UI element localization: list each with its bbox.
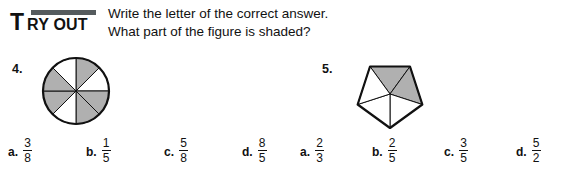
fraction-numerator: 5: [179, 137, 188, 149]
answer-choice[interactable]: d.85: [242, 138, 267, 165]
choice-letter: d.: [242, 145, 253, 159]
question-number-5: 5.: [322, 62, 332, 76]
fraction-denominator: 2: [532, 152, 541, 164]
fraction-denominator: 5: [388, 152, 397, 164]
try-out-badge-text: RY OUT: [27, 17, 88, 33]
fraction-denominator: 5: [459, 152, 468, 164]
answer-choice[interactable]: a.23: [300, 138, 324, 165]
try-out-badge-initial: T: [10, 11, 24, 34]
fraction: 85: [258, 137, 267, 164]
fraction: 38: [23, 137, 32, 164]
fraction: 58: [179, 137, 188, 164]
choice-letter: d.: [516, 145, 527, 159]
fraction-denominator: 5: [102, 152, 111, 164]
fraction-numerator: 3: [23, 137, 32, 149]
answer-choice[interactable]: b.15: [86, 138, 111, 165]
fraction-numerator: 5: [532, 137, 541, 149]
try-out-badge: T RY OUT: [10, 8, 96, 34]
fraction: 25: [388, 137, 397, 164]
fraction: 15: [102, 137, 111, 164]
fraction: 52: [532, 137, 541, 164]
fraction-numerator: 3: [459, 137, 468, 149]
answer-choices-row: a.38b.15c.58d.85 a.23b.25c.35d.52: [0, 134, 588, 186]
instruction-line-1: Write the letter of the correct answer.: [108, 5, 408, 23]
circle-eighths-figure: [39, 52, 113, 130]
choice-letter: c.: [444, 145, 454, 159]
answer-choice[interactable]: b.25: [372, 138, 397, 165]
fraction-numerator: 2: [388, 137, 397, 149]
figures-row: 4. 5.: [0, 52, 588, 134]
fraction-denominator: 8: [23, 152, 32, 164]
fraction-denominator: 5: [258, 152, 267, 164]
answer-choice[interactable]: d.52: [516, 138, 541, 165]
answer-choice[interactable]: a.38: [8, 138, 32, 165]
answer-choice[interactable]: c.35: [444, 138, 468, 165]
fraction: 35: [459, 137, 468, 164]
instruction-text: Write the letter of the correct answer. …: [108, 5, 408, 40]
fraction-numerator: 2: [315, 137, 324, 149]
choice-letter: a.: [300, 145, 310, 159]
question-number-4: 4.: [12, 62, 22, 76]
fraction-numerator: 8: [258, 137, 267, 149]
fraction: 23: [315, 137, 324, 164]
answer-choice[interactable]: c.58: [164, 138, 188, 165]
instructions-header: T RY OUT Write the letter of the correct…: [0, 0, 588, 52]
pentagon-fifths-figure: [350, 52, 430, 130]
fraction-denominator: 3: [315, 152, 324, 164]
choice-letter: a.: [8, 145, 18, 159]
try-out-underline-bar: [31, 10, 96, 15]
choice-letter: b.: [372, 145, 383, 159]
instruction-line-2: What part of the figure is shaded?: [108, 23, 408, 41]
fraction-numerator: 1: [102, 137, 111, 149]
choice-letter: c.: [164, 145, 174, 159]
fraction-denominator: 8: [179, 152, 188, 164]
choice-letter: b.: [86, 145, 97, 159]
